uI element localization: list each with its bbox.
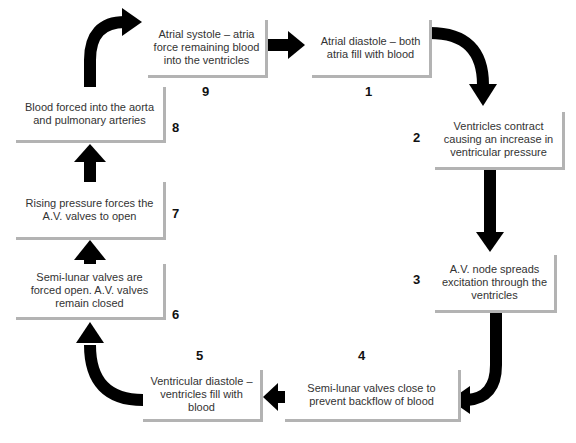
step-box-2: Ventricles contract causing an increase … [435,112,565,170]
step-text-8: Blood forced into the aorta and pulmonar… [20,101,159,127]
step-box-3: A.V. node spreads excitation through the… [435,255,557,313]
step-number-8: 8 [172,120,179,135]
step-text-5: Ventricular diastole – ventricles fill w… [147,375,256,414]
step-box-1: Atrial diastole – both atria fill with b… [312,20,432,78]
step-text-2: Ventricles contract causing an increase … [439,120,558,159]
step-box-7: Rising pressure forces the A.V. valves t… [16,182,166,240]
step-number-5: 5 [196,348,203,363]
step-box-4: Semi-lunar valves close to prevent backf… [285,370,461,422]
step-number-6: 6 [172,307,179,322]
arrow-7-to-8 [74,144,106,182]
step-text-3: A.V. node spreads excitation through the… [439,263,550,302]
arrow-8-to-9 [90,8,142,87]
step-box-6: Semi-lunar valves are forced open. A.V. … [16,264,166,320]
step-number-2: 2 [413,130,420,145]
step-box-5: Ventricular diastole – ventricles fill w… [143,370,263,422]
step-number-1: 1 [365,84,372,99]
arrow-2-to-3 [476,168,504,252]
step-text-9: Atrial systole – atria force remaining b… [152,28,261,67]
arrow-5-to-6 [76,322,143,400]
step-number-9: 9 [202,84,209,99]
step-box-8: Blood forced into the aorta and pulmonar… [16,87,166,143]
step-box-9: Atrial systole – atria force remaining b… [148,20,268,78]
arrow-1-to-2 [430,33,497,106]
step-text-4: Semi-lunar valves close to prevent backf… [289,382,454,408]
step-text-6: Semi-lunar valves are forced open. A.V. … [20,271,159,310]
arrow-6-to-7 [74,240,106,266]
step-number-3: 3 [413,272,420,287]
step-text-1: Atrial diastole – both atria fill with b… [316,35,425,61]
step-number-4: 4 [358,348,365,363]
step-number-7: 7 [172,206,179,221]
step-text-7: Rising pressure forces the A.V. valves t… [20,197,159,223]
arrow-9-to-1 [268,31,305,59]
